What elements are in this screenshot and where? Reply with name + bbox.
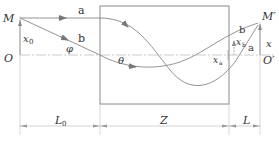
label-M-prime: M′ — [261, 10, 276, 23]
label-x0-sub: 0 — [29, 38, 33, 46]
label-Z: Z — [159, 114, 168, 127]
ray-a — [20, 18, 258, 86]
dim-arrow-l-right — [253, 125, 260, 128]
label-M: M — [2, 12, 15, 25]
ray-b-arrow — [60, 37, 68, 41]
label-L: L — [242, 114, 250, 127]
label-O: O — [4, 52, 13, 65]
label-xb: x — [236, 37, 241, 47]
label-b-left: b — [78, 32, 85, 45]
label-x: x — [266, 38, 272, 49]
label-L0-sub: 0 — [62, 120, 66, 128]
dim-arrow-l-left — [229, 125, 236, 128]
label-phi: φ — [66, 43, 73, 54]
dim-arrow-z-right — [222, 125, 229, 128]
dim-arrow-l0-right — [93, 125, 100, 128]
label-O-prime: O′ — [263, 54, 275, 67]
dim-arrow-l0-left — [20, 125, 27, 128]
label-b-right: b — [239, 24, 245, 35]
label-a-left: a — [78, 4, 85, 17]
label-xa-sub: a — [219, 59, 223, 66]
label-theta: θ — [118, 55, 124, 66]
label-xa: x — [213, 55, 218, 65]
dim-arrow-z-left — [100, 125, 107, 128]
label-a-right: a — [248, 42, 254, 53]
optics-ray-diagram: M O x 0 a b φ θ x a b x b a M′ x O′ L 0 … — [0, 0, 279, 143]
label-xb-sub: b — [242, 41, 246, 48]
